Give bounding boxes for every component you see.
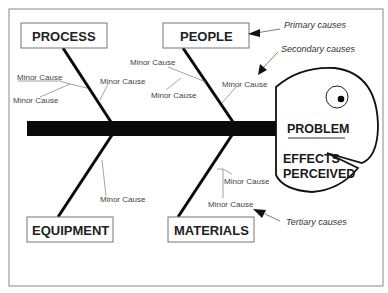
minor-cause: Minor Cause <box>17 73 63 82</box>
minor-cause: Minor Cause <box>151 91 197 100</box>
problem-label: PROBLEM <box>287 122 350 136</box>
fish-eye <box>326 86 348 108</box>
minor-cause: Minor Cause <box>208 200 254 209</box>
category-box-process: PROCESS <box>21 23 107 48</box>
minor-cause: Minor Cause <box>100 77 146 86</box>
minor-cause: Minor Cause <box>222 80 268 89</box>
minor-cause: Minor Cause <box>100 195 146 204</box>
minor-cause: Minor Cause <box>130 58 176 67</box>
svg-text:Secondary causes: Secondary causes <box>281 44 356 54</box>
category-box-people: PEOPLE <box>163 23 249 48</box>
svg-text:Primary causes: Primary causes <box>284 20 347 30</box>
perceived-label: PERCEIVED <box>283 167 355 181</box>
category-box-equipment: EQUIPMENT <box>27 217 113 242</box>
svg-text:MATERIALS: MATERIALS <box>174 223 249 238</box>
svg-text:Tertiary causes: Tertiary causes <box>286 217 347 227</box>
spine <box>27 121 277 136</box>
category-box-materials: MATERIALS <box>168 217 254 242</box>
minor-cause: Minor Cause <box>13 96 59 105</box>
effects-label: EFFECTS <box>283 152 340 166</box>
minor-cause: Minor Cause <box>224 177 270 186</box>
svg-text:PROCESS: PROCESS <box>32 29 96 44</box>
svg-text:PEOPLE: PEOPLE <box>180 29 233 44</box>
fish-pupil <box>338 96 345 103</box>
fishbone-diagram: PROBLEM EFFECTS PERCEIVED PROCESS PEOPLE… <box>0 0 388 293</box>
svg-text:EQUIPMENT: EQUIPMENT <box>32 223 109 238</box>
